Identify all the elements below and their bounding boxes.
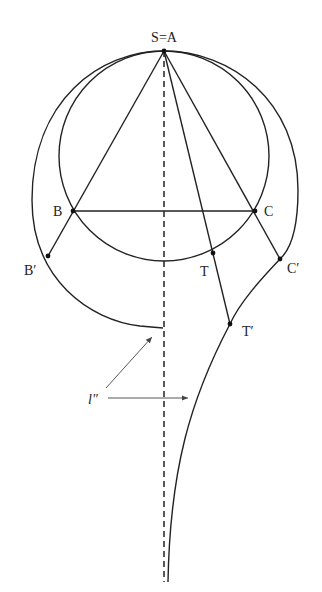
label-B: B [53, 204, 62, 219]
point-T [211, 251, 216, 256]
label-C-prime: C′ [287, 261, 299, 276]
label-apex: S=A [151, 30, 178, 45]
line-A-T-Tprime [164, 51, 230, 324]
outer-curve-left [32, 51, 164, 328]
label-T-prime: T′ [242, 324, 254, 339]
label-l-double-prime: l″ [88, 392, 98, 407]
label-C: C [264, 204, 273, 219]
line-A-B-Bprime [48, 51, 164, 256]
point-C-prime [278, 257, 283, 262]
geometry-figure: S=A B C B′ C′ T T′ l″ [0, 0, 322, 592]
arrow-to-left-end [106, 337, 152, 388]
point-C [253, 209, 258, 214]
outer-curve-right [164, 51, 298, 582]
label-T: T [200, 264, 209, 279]
line-A-C-Cprime [164, 51, 280, 259]
point-T-prime [228, 322, 233, 327]
point-B-prime [46, 254, 51, 259]
point-B [71, 209, 76, 214]
point-apex [162, 49, 167, 54]
label-B-prime: B′ [24, 263, 36, 278]
